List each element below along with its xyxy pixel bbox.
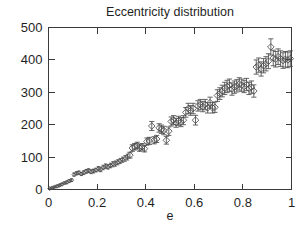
y-tick-label: 400 xyxy=(21,52,43,67)
eccentricity-distribution-chart: Eccentricity distribution 01002003004005… xyxy=(0,0,308,233)
x-tick-label: 0.2 xyxy=(88,195,106,210)
x-axis-label: e xyxy=(167,209,174,223)
y-tick-label: 200 xyxy=(21,117,43,132)
x-tick-label: 0.8 xyxy=(234,195,252,210)
x-tick-label: 0.6 xyxy=(185,195,203,210)
y-tick-label: 500 xyxy=(21,20,43,35)
y-tick-label: 0 xyxy=(35,182,42,197)
x-tick-label: 0.4 xyxy=(137,195,155,210)
x-tick-label: 1 xyxy=(288,195,295,210)
data-point xyxy=(70,178,74,182)
x-tick-label: 0 xyxy=(45,195,52,210)
y-tick-label: 300 xyxy=(21,85,43,100)
chart-figure: Eccentricity distribution 01002003004005… xyxy=(0,0,308,233)
chart-title: Eccentricity distribution xyxy=(106,5,234,19)
y-tick-label: 100 xyxy=(21,150,43,165)
